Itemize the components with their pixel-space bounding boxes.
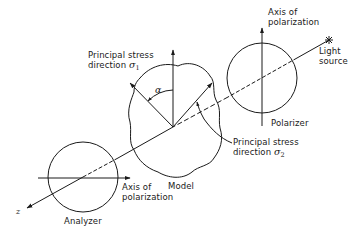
sigma2-leader-line bbox=[197, 102, 232, 143]
analyzer-label: Analyzer bbox=[64, 216, 102, 226]
light-source-label: Light source bbox=[319, 46, 348, 66]
model-outline bbox=[129, 64, 222, 178]
sigma2-label: Principal stress direction σ2 bbox=[233, 137, 299, 160]
light-source-icon bbox=[325, 36, 333, 44]
sigma2-symbol: σ2 bbox=[274, 146, 285, 157]
sigma1-symbol: σ1 bbox=[129, 59, 140, 70]
analyzer-axis-label: Axis of polarization bbox=[122, 182, 173, 202]
polarizer-axis-label: Axis of polarization bbox=[268, 7, 319, 27]
sigma1-label: Principal stress direction σ1 bbox=[88, 50, 154, 73]
sigma1-direction-arrow bbox=[130, 83, 173, 127]
z-axis-label: z bbox=[16, 207, 20, 217]
polarizer-label: Polarizer bbox=[271, 118, 309, 128]
alpha-label: α bbox=[155, 85, 162, 95]
sigma2-direction-arrow bbox=[173, 83, 212, 127]
polariscope-diagram: Axis of polarization Light source Polari… bbox=[0, 0, 357, 237]
